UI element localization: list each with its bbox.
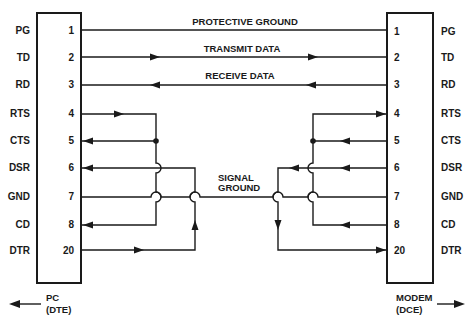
arrow-left-icon	[9, 300, 20, 308]
pc-signal-dtr: DTR	[9, 245, 30, 256]
modem-signal-gnd: GND	[441, 191, 463, 202]
pc-pin-2: 2	[68, 52, 74, 63]
arrow-left-icon	[306, 82, 316, 89]
arrow-left-icon	[83, 165, 93, 172]
arrow-left-icon	[289, 165, 299, 172]
modem-device-role: (DCE)	[396, 304, 422, 315]
pc-pin-5: 5	[68, 135, 74, 146]
junction-dot	[310, 138, 316, 144]
arrow-right-icon	[454, 300, 465, 308]
pc-dte-caption: PC (DTE)	[9, 292, 71, 315]
pc-signal-rd: RD	[16, 79, 30, 90]
modem-signal-rts: RTS	[441, 108, 461, 119]
pc-signal-td: TD	[17, 52, 30, 63]
arrow-right-icon	[376, 111, 386, 118]
modem-signal-cd: CD	[441, 219, 455, 230]
null-modem-wiring-diagram: PG TD RD RTS CTS DSR GND CD DTR 1 2 3 4 …	[0, 0, 469, 322]
modem-signal-dsr: DSR	[441, 162, 463, 173]
pc-signal-gnd: GND	[8, 191, 30, 202]
modem-signal-cts: CTS	[441, 135, 461, 146]
pc-dtr-dsr-loop	[81, 165, 199, 254]
modem-signal-labels: PG TD RD RTS CTS DSR GND CD DTR	[441, 26, 463, 256]
pc-signal-cd: CD	[16, 219, 30, 230]
modem-pin-2: 2	[394, 52, 400, 63]
arrow-left-icon	[340, 138, 350, 145]
arrow-left-icon	[150, 82, 160, 89]
modem-signal-td: TD	[441, 52, 454, 63]
modem-dce-caption: MODEM (DCE)	[396, 292, 465, 315]
arrow-right-icon	[114, 111, 124, 118]
pc-signal-labels: PG TD RD RTS CTS DSR GND CD DTR	[8, 25, 31, 256]
pc-signal-cts: CTS	[10, 135, 30, 146]
modem-pin-5: 5	[394, 135, 400, 146]
pc-device-role: (DTE)	[46, 304, 71, 315]
modem-pin-6: 6	[394, 162, 400, 173]
receive-data-label: RECEIVE DATA	[205, 70, 274, 81]
arrow-left-icon	[83, 222, 93, 229]
modem-pin-7: 7	[394, 191, 400, 202]
arrow-left-icon	[83, 138, 93, 145]
modem-signal-dtr: DTR	[441, 245, 462, 256]
arrow-right-icon	[308, 54, 318, 61]
modem-pin-8: 8	[394, 219, 400, 230]
pc-signal-dsr: DSR	[9, 162, 31, 173]
arrow-left-icon	[340, 165, 350, 172]
pc-pin-8: 8	[68, 219, 74, 230]
arrow-down-icon	[275, 220, 282, 230]
modem-pin-3: 3	[394, 79, 400, 90]
pc-pin-6: 6	[68, 162, 74, 173]
pc-pin-7: 7	[68, 191, 74, 202]
pc-connector-box	[37, 13, 81, 283]
arrow-right-icon	[134, 247, 144, 254]
pc-signal-pg: PG	[16, 25, 31, 36]
transmit-data-wire	[81, 54, 387, 61]
modem-signal-pg: PG	[441, 26, 456, 37]
pc-pin-4: 4	[68, 108, 74, 119]
modem-dsr-dtr-loop	[273, 165, 387, 254]
transmit-data-label: TRANSMIT DATA	[204, 43, 281, 54]
pc-pin-20: 20	[63, 245, 75, 256]
signal-ground-label-line2: GROUND	[218, 182, 260, 193]
modem-device-name: MODEM	[396, 292, 433, 303]
arrow-left-icon	[340, 222, 350, 229]
arrow-up-icon	[192, 220, 199, 230]
pc-pin-1: 1	[68, 25, 74, 36]
modem-pin-1: 1	[394, 26, 400, 37]
modem-pin-4: 4	[394, 108, 400, 119]
junction-dot	[153, 138, 159, 144]
pc-signal-rts: RTS	[10, 108, 30, 119]
modem-pin-20: 20	[394, 245, 406, 256]
arrow-right-icon	[376, 247, 386, 254]
pc-device-name: PC	[46, 292, 59, 303]
modem-signal-rd: RD	[441, 79, 455, 90]
arrow-right-icon	[150, 54, 160, 61]
receive-data-wire	[81, 82, 387, 89]
pc-pin-3: 3	[68, 79, 74, 90]
protective-ground-label: PROTECTIVE GROUND	[192, 16, 298, 27]
